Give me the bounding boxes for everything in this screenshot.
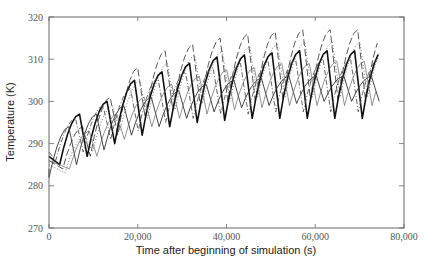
series-line bbox=[49, 76, 379, 177]
y-tick-label: 270 bbox=[28, 223, 43, 234]
x-tick-label: 0 bbox=[47, 231, 52, 242]
x-tick-label: 80,000 bbox=[390, 231, 418, 242]
y-tick-label: 320 bbox=[28, 12, 43, 23]
x-tick-label: 20,000 bbox=[124, 231, 152, 242]
x-axis-title: Time after beginning of simulation (s) bbox=[136, 244, 317, 256]
y-axis-title: Temperature (K) bbox=[4, 82, 16, 161]
series-line bbox=[49, 51, 378, 165]
temperature-chart: 020,00040,00060,00080,000270280290300310… bbox=[0, 0, 434, 272]
plot-frame bbox=[49, 17, 404, 228]
x-tick-label: 40,000 bbox=[213, 231, 241, 242]
y-tick-label: 310 bbox=[28, 54, 43, 65]
y-tick-label: 300 bbox=[28, 96, 43, 107]
series-line bbox=[49, 42, 380, 173]
series-layer bbox=[49, 30, 380, 178]
y-tick-label: 290 bbox=[28, 138, 43, 149]
x-tick-label: 60,000 bbox=[302, 231, 330, 242]
y-tick-label: 280 bbox=[28, 180, 43, 191]
series-line bbox=[49, 30, 377, 169]
